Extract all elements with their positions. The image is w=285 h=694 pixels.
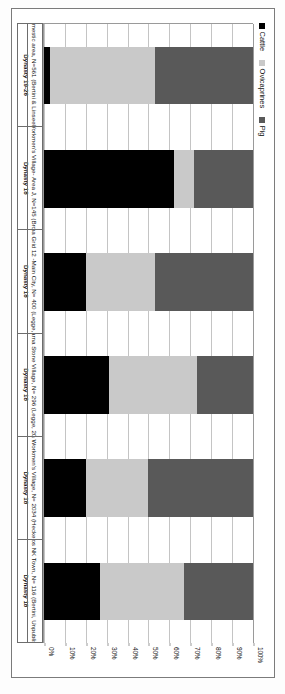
category-site-label: Amarna Grid 12 -Main City, N= 400 (Legge…: [31, 229, 38, 332]
category-cell: Amarna Grid 12 -Main City, N= 400 (Legge…: [17, 229, 43, 332]
axis-tick-mark: [44, 643, 45, 646]
axis-tick-mark: [253, 643, 254, 646]
bar-segment-ovicaprines: [108, 356, 196, 414]
legend-label-ovicaprines: Ovicaprines: [258, 69, 267, 109]
axis-tick-mark: [232, 643, 233, 646]
bar-segment-pig: [194, 150, 253, 208]
axis-tick-label-10pct: 10%: [68, 647, 75, 659]
legend-label-pig: Pig: [258, 126, 267, 137]
bar-segment-ovicaprines: [100, 563, 184, 621]
bar-segment-cattle: [44, 356, 109, 414]
plot-area: 0%10%20%30%40%50%60%70%80%90%100%: [43, 23, 253, 643]
axis-tick-label-100pct: 100%: [256, 647, 263, 663]
category-row-separator: [27, 127, 28, 229]
axis-tick-mark: [190, 643, 191, 646]
category-cell: Amarna Workmen's Village, N= 2034 (Hecke…: [17, 436, 43, 539]
bar-segment-cattle: [44, 150, 174, 208]
legend-item-pig: Pig: [258, 117, 267, 136]
bar-segment-ovicaprines: [85, 459, 148, 517]
category-row-separator: [27, 437, 28, 539]
legend-swatch-icon-cattle: [259, 23, 265, 29]
bar-segment-ovicaprines: [173, 150, 194, 208]
bar-slot: [44, 24, 253, 127]
axis-tick-label-20pct: 20%: [89, 647, 96, 659]
bar-slot: [44, 127, 253, 230]
axis-tick-mark: [128, 643, 129, 646]
category-site-label: Amarna Workmen's Village, N= 2034 (Hecke…: [31, 436, 38, 539]
category-cell: Amarna Stone Village, N= 296 (Legge, 201…: [17, 333, 43, 436]
bar-segment-cattle: [44, 563, 100, 621]
bar-slot: [44, 334, 253, 437]
category-site-label: Malkata Workmen's Village- Area J, N=145…: [31, 126, 38, 229]
legend-item-ovicaprines: Ovicaprines: [258, 60, 267, 108]
axis-tick-label-80pct: 80%: [214, 647, 221, 659]
category-row-separator: [27, 540, 28, 642]
axis-tick-mark: [211, 643, 212, 646]
bar-group: [44, 24, 253, 643]
axis-tick-label-40pct: 40%: [131, 647, 138, 659]
legend-swatch-icon-pig: [259, 117, 265, 123]
axis-tick-label-70pct: 70%: [193, 647, 200, 659]
stacked-bar[interactable]: [44, 459, 253, 517]
legend-item-cattle: Cattle: [258, 23, 267, 51]
category-site-label: Abydos NK Town, N= 116 (Bertini, Unpubli…: [31, 539, 38, 643]
axis-tick-mark: [169, 643, 170, 646]
bar-segment-cattle: [44, 253, 86, 311]
legend-swatch-icon-ovicaprines: [259, 60, 265, 66]
axis-tick-label-50pct: 50%: [152, 647, 159, 659]
rotated-chart-stage: Cattle Ovicaprines Pig 0%10%20%30%40%50%…: [17, 17, 269, 677]
bar-segment-cattle: [44, 47, 50, 105]
bar-slot: [44, 540, 253, 643]
figure-page: Cattle Ovicaprines Pig 0%10%20%30%40%50%…: [0, 0, 285, 694]
bar-segment-pig: [196, 356, 252, 414]
bar-segment-pig: [148, 459, 253, 517]
axis-tick-mark: [149, 643, 150, 646]
chart-legend: Cattle Ovicaprines Pig: [258, 23, 267, 137]
bar-segment-ovicaprines: [50, 47, 155, 105]
category-cell: Malkata Workmen's Village- Area J, N=145…: [17, 126, 43, 229]
bar-segment-pig: [154, 253, 252, 311]
stacked-bar[interactable]: [44, 356, 253, 414]
stacked-bar[interactable]: [44, 253, 253, 311]
category-cell: Abydos NK Town, N= 116 (Bertini, Unpubli…: [17, 539, 43, 643]
category-row-separator: [27, 24, 28, 126]
bar-segment-pig: [154, 47, 252, 105]
bar-slot: [44, 230, 253, 333]
axis-tick-mark: [86, 643, 87, 646]
category-site-label: Amarna Stone Village, N= 296 (Legge, 201…: [31, 333, 38, 436]
bar-segment-ovicaprines: [85, 253, 154, 311]
bar-slot: [44, 437, 253, 540]
axis-tick-mark: [65, 643, 66, 646]
category-cell: Sais Domestic area, N=561 (Bertini & Lin…: [17, 23, 43, 126]
category-label-table: Sais Domestic area, N=561 (Bertini & Lin…: [17, 23, 43, 643]
axis-tick-label-0pct: 0%: [47, 647, 54, 656]
axis-tick-label-30pct: 30%: [110, 647, 117, 659]
axis-tick-label-60pct: 60%: [172, 647, 179, 659]
stacked-bar[interactable]: [44, 563, 253, 621]
axis-tick-mark: [107, 643, 108, 646]
legend-label-cattle: Cattle: [258, 32, 267, 52]
category-site-label: Sais Domestic area, N=561 (Bertini & Lin…: [31, 23, 38, 126]
bar-segment-pig: [184, 563, 253, 621]
stacked-bar[interactable]: [44, 47, 253, 105]
category-row-separator: [27, 334, 28, 436]
bar-segment-cattle: [44, 459, 86, 517]
axis-tick-label-90pct: 90%: [235, 647, 242, 659]
stacked-bar-chart: Cattle Ovicaprines Pig 0%10%20%30%40%50%…: [17, 17, 269, 677]
stacked-bar[interactable]: [44, 150, 253, 208]
category-row-separator: [27, 230, 28, 332]
